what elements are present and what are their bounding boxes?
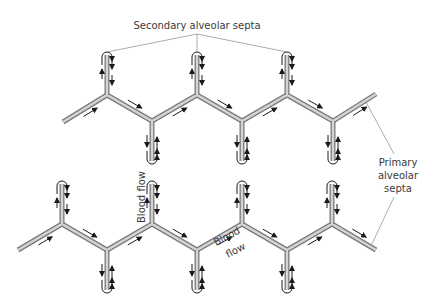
leader-line xyxy=(366,102,394,154)
secondary-septa-label: Secondary alveolar septa xyxy=(133,20,260,31)
alveolar-septa-diagram: Secondary alveolar septa Primary alveola… xyxy=(0,0,427,304)
blood-flow-label-vertical: Blood flow xyxy=(136,171,147,223)
blood-flow-arrows xyxy=(38,52,366,293)
leader-line xyxy=(107,34,197,52)
secondary-septa-leaders xyxy=(107,34,287,52)
septa-layer xyxy=(18,55,376,290)
primary-septum xyxy=(18,224,376,250)
primary-septa-label-line3: septa xyxy=(384,183,412,194)
primary-septa-label-line2: alveolar xyxy=(378,170,419,181)
primary-septa-label-line1: Primary xyxy=(379,157,418,168)
leader-line xyxy=(371,197,394,246)
leader-line xyxy=(197,34,287,52)
blood-flow-label-diagonal-2: flow xyxy=(224,240,247,259)
